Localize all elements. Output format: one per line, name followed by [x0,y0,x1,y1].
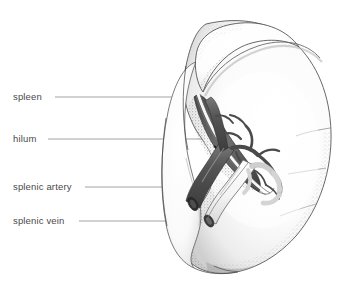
spleen-figure: spleen hilum splenic artery splenic vein [0,0,356,291]
label-hilum: hilum [13,134,36,144]
label-splenic-artery: splenic artery [13,182,72,192]
spleen-illustration-svg [0,0,356,291]
label-spleen: spleen [13,92,42,102]
label-splenic-vein: splenic vein [13,216,64,226]
